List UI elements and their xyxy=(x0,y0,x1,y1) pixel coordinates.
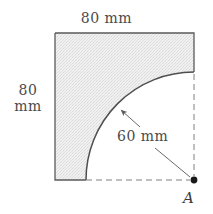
radius-leader-to-point xyxy=(155,148,190,177)
radius-leader-to-arc xyxy=(121,110,140,127)
leader-arrow-arc xyxy=(121,110,140,127)
shaded-region xyxy=(55,33,194,180)
dimension-label-left: 80 mm xyxy=(2,82,54,114)
dimension-label-top: 80 mm xyxy=(0,10,213,26)
dimension-label-left-unit: mm xyxy=(2,98,54,114)
point-a-marker xyxy=(191,177,198,184)
dimension-label-radius: 60 mm xyxy=(117,128,168,144)
figure-container: 80 mm 80 mm 60 mm A xyxy=(0,0,213,214)
leader-line-point xyxy=(155,148,190,177)
dimension-label-left-value: 80 xyxy=(2,82,54,98)
point-a-label: A xyxy=(183,190,194,206)
region-fill xyxy=(55,33,194,180)
